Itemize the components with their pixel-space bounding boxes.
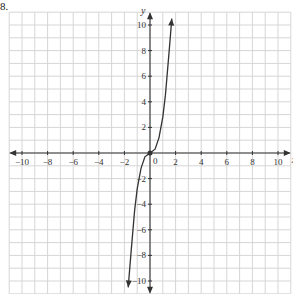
y-tick-label: −10 [132,276,147,286]
y-tick-label: 6 [142,71,147,81]
x-tick-label: 6 [225,157,230,167]
x-tick-label: −8 [43,157,53,167]
origin-point [148,151,153,156]
y-tick-label: 10 [137,20,147,30]
x-tick-label: −2 [120,157,130,167]
y-axis-label: y [140,5,146,16]
y-tick-label: 8 [142,46,147,56]
x-tick-label: 4 [199,157,204,167]
x-tick-label: −10 [15,157,30,167]
y-tick-label: 2 [142,122,147,132]
x-tick-label: 10 [274,157,284,167]
curve-top-arrow-icon [168,19,174,26]
x-tick-label: 2 [173,157,178,167]
function-graph: −10−8−6−4−2246810−10−8−6−4−22468100xy [0,0,293,294]
x-axis-right-arrow-icon [284,150,291,156]
curve-bottom-arrow-icon [126,280,132,287]
x-axis-left-arrow-icon [9,150,16,156]
y-tick-label: 4 [142,97,147,107]
y-axis-down-arrow-icon [147,287,153,294]
x-tick-label: −6 [68,157,78,167]
y-tick-label: −4 [136,199,146,209]
y-axis-up-arrow-icon [147,12,153,19]
x-tick-label: −4 [94,157,104,167]
origin-label: 0 [153,156,158,166]
x-axis-label: x [291,154,293,165]
x-tick-label: 8 [250,157,255,167]
y-tick-label: −6 [136,225,146,235]
y-tick-label: −8 [136,250,146,260]
